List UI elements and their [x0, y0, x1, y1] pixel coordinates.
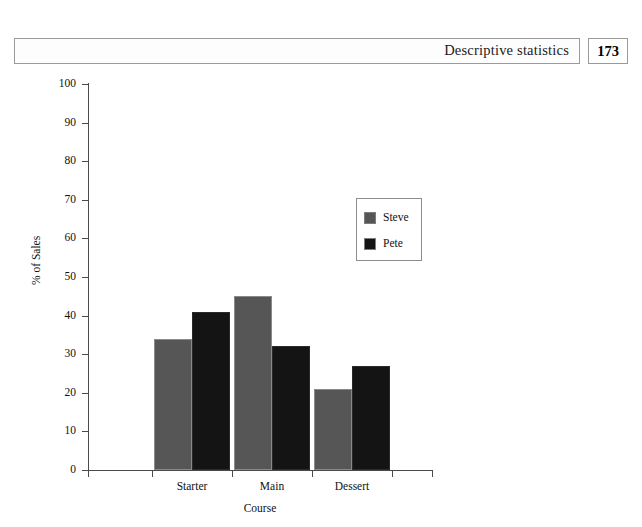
y-axis-tick-label-text: 70 — [46, 194, 76, 206]
y-axis-tick-label-text: 10 — [46, 425, 76, 437]
chart-legend: StevePete — [356, 198, 422, 261]
y-axis-tick-label: 50 — [44, 271, 76, 283]
plot-area — [88, 84, 432, 470]
bar-steve-starter — [154, 339, 192, 470]
page-header-band: Descriptive statistics — [14, 38, 580, 64]
x-axis-category-label: Dessert — [307, 480, 397, 492]
y-axis-tick-label: 40 — [44, 310, 76, 322]
x-axis-label: Course — [88, 502, 432, 514]
y-axis-tick-label: 10 — [44, 425, 76, 437]
bar-steve-dessert — [314, 389, 352, 470]
legend-item-pete: Pete — [364, 237, 403, 251]
page-header-title: Descriptive statistics — [444, 42, 569, 59]
y-axis-tick-label-text: 100 — [46, 78, 76, 90]
y-axis-tick-label-text: 60 — [46, 232, 76, 244]
x-axis-line — [88, 470, 433, 471]
y-axis-tick-label-text: 50 — [46, 271, 76, 283]
x-axis-tick — [232, 470, 233, 477]
bar-steve-main — [234, 296, 272, 470]
y-axis-tick-label-text: 30 — [46, 348, 76, 360]
legend-item-steve: Steve — [364, 211, 409, 225]
legend-label-pete: Pete — [383, 238, 403, 250]
y-axis-tick-label: 0 — [44, 464, 76, 476]
y-axis-tick-label: 90 — [44, 117, 76, 129]
legend-swatch-pete — [364, 238, 376, 250]
bar-chart: 0102030405060708090100 StarterMainDesser… — [0, 70, 642, 527]
y-axis-tick-label: 80 — [44, 155, 76, 167]
legend-swatch-steve — [364, 212, 376, 224]
y-axis-tick-label-text: 0 — [46, 464, 76, 476]
legend-label-steve: Steve — [383, 212, 409, 224]
y-axis-tick-label-text: 90 — [46, 117, 76, 129]
page-number-box: 173 — [588, 38, 628, 64]
y-axis-tick-label: 20 — [44, 387, 76, 399]
y-axis-tick-label: 100 — [44, 78, 76, 90]
x-axis-category-label: Main — [227, 480, 317, 492]
y-axis-tick-label: 60 — [44, 232, 76, 244]
page-number: 173 — [597, 43, 619, 60]
bar-pete-starter — [192, 312, 230, 470]
bar-pete-main — [272, 346, 310, 470]
y-axis-tick-label: 70 — [44, 194, 76, 206]
y-axis-tick-label-text: 40 — [46, 310, 76, 322]
y-axis-tick-label: 30 — [44, 348, 76, 360]
x-axis-tick — [432, 470, 433, 477]
y-axis-tick-label-text: 20 — [46, 387, 76, 399]
bar-pete-dessert — [352, 366, 390, 470]
x-axis-category-label: Starter — [147, 480, 237, 492]
x-axis-tick — [312, 470, 313, 477]
y-axis-tick-label-text: 80 — [46, 155, 76, 167]
x-axis-tick — [88, 470, 89, 477]
x-axis-tick — [392, 470, 393, 477]
y-axis-label-text: % of Sales — [30, 236, 42, 285]
x-axis-tick — [152, 470, 153, 477]
